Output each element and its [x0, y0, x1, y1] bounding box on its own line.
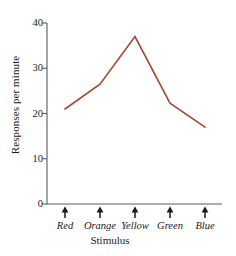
x-arrow-red	[62, 207, 69, 219]
line-chart-plot	[0, 0, 236, 256]
x-tick-label-yellow: Yellow	[121, 220, 149, 231]
x-tick-label-green: Green	[157, 220, 183, 231]
x-category-arrows	[62, 207, 209, 219]
chart-figure: 40 30 20 10 0 Responses per minute Red O…	[0, 0, 236, 256]
x-tick-label-blue: Blue	[195, 220, 214, 231]
x-axis-title-text: Stimulus	[90, 234, 129, 246]
data-line-responses	[65, 37, 205, 128]
x-arrow-yellow	[132, 207, 139, 219]
x-tick-label-red: Red	[57, 220, 73, 231]
x-tick-label-orange: Orange	[84, 220, 116, 231]
y-axis-ticks	[43, 23, 48, 204]
x-axis-title: Stimulus	[0, 234, 236, 246]
x-arrow-orange	[97, 207, 104, 219]
x-arrow-blue	[202, 207, 209, 219]
x-arrow-green	[167, 207, 174, 219]
